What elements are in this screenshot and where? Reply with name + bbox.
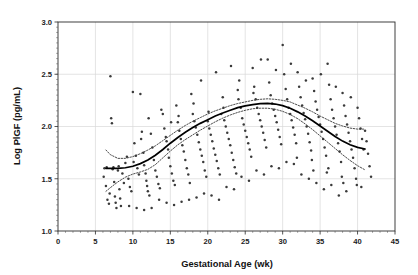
data-point: [167, 148, 170, 151]
data-point: [329, 98, 332, 101]
data-point: [284, 88, 287, 91]
data-point: [322, 138, 325, 141]
data-point: [198, 141, 201, 144]
data-point: [230, 151, 233, 154]
data-point: [260, 58, 263, 61]
data-point: [327, 167, 330, 170]
x-tick-labels-group: 051015202530354045: [56, 237, 400, 246]
data-point: [290, 119, 293, 122]
data-point: [252, 92, 255, 95]
data-point: [154, 169, 157, 172]
data-point: [260, 125, 263, 128]
data-point: [352, 157, 355, 160]
data-point: [328, 83, 331, 86]
data-point: [222, 96, 225, 99]
data-point: [214, 153, 217, 156]
data-point: [162, 113, 165, 116]
data-point: [256, 106, 259, 109]
data-point: [186, 167, 189, 170]
data-point: [126, 156, 128, 159]
data-point: [181, 144, 184, 147]
data-point: [269, 94, 272, 97]
data-point: [175, 104, 178, 107]
data-point: [119, 197, 122, 200]
data-point: [180, 138, 183, 141]
x-tick-label: 0: [56, 237, 60, 246]
data-point: [311, 159, 314, 162]
data-point: [305, 79, 308, 82]
data-point: [240, 175, 243, 178]
data-point: [356, 106, 359, 109]
data-point: [232, 159, 235, 162]
data-point: [215, 71, 218, 74]
data-point: [299, 96, 302, 99]
data-point: [320, 130, 323, 133]
data-point: [253, 86, 256, 89]
data-point: [300, 173, 303, 176]
data-point: [335, 134, 338, 137]
data-point: [192, 113, 195, 116]
y-tick-label: 1.0: [41, 227, 52, 236]
data-point: [293, 163, 296, 166]
data-point: [225, 125, 228, 128]
data-point: [210, 194, 213, 197]
data-point: [340, 161, 343, 164]
data-point: [316, 109, 319, 112]
data-point: [109, 75, 112, 78]
data-point: [127, 178, 130, 181]
data-point: [317, 116, 320, 119]
data-point: [255, 169, 258, 172]
data-point: [345, 190, 348, 193]
y-axis-title: Log PlGF (pg/mL): [12, 87, 22, 165]
data-point: [196, 134, 199, 137]
data-point: [177, 121, 180, 124]
data-point: [138, 173, 141, 176]
data-point: [265, 146, 268, 149]
data-point: [156, 175, 159, 178]
data-point: [144, 172, 147, 175]
data-point: [361, 138, 364, 141]
data-point: [121, 172, 124, 175]
data-point: [355, 178, 358, 181]
data-point: [268, 81, 271, 84]
data-point: [259, 119, 262, 122]
data-point: [188, 198, 191, 201]
data-point: [278, 136, 281, 139]
data-point: [301, 104, 304, 107]
data-point: [183, 150, 186, 153]
data-point: [226, 132, 229, 135]
data-point: [141, 130, 144, 133]
data-point: [286, 98, 289, 101]
data-point: [205, 175, 208, 178]
data-point: [128, 205, 131, 208]
x-tick-label: 15: [166, 237, 175, 246]
data-point: [298, 86, 301, 89]
data-point: [222, 106, 225, 109]
x-tick-label: 5: [93, 237, 98, 246]
data-point: [254, 98, 257, 101]
data-point: [332, 117, 335, 120]
data-point: [165, 202, 168, 205]
data-point: [150, 133, 153, 136]
data-point: [193, 120, 196, 123]
data-point: [307, 133, 310, 136]
data-point: [173, 204, 176, 207]
data-point: [338, 150, 341, 153]
data-point: [272, 109, 275, 112]
data-point: [187, 173, 190, 176]
data-point: [160, 109, 163, 112]
data-point: [105, 185, 108, 188]
plgf-scatter-figure: 051015202530354045 1.01.52.02.53.0 Gesta…: [0, 0, 418, 275]
data-point: [140, 138, 143, 141]
data-point: [353, 167, 356, 170]
data-point: [330, 184, 333, 187]
data-point: [359, 127, 362, 130]
y-tick-label: 2.0: [41, 122, 52, 131]
data-point: [236, 89, 239, 92]
data-point: [326, 63, 329, 66]
y-tick-label: 1.5: [41, 175, 52, 184]
y-tick-label: 3.0: [41, 18, 52, 27]
data-point: [343, 104, 346, 107]
y-tick-label: 2.5: [41, 70, 52, 79]
data-point: [180, 200, 183, 203]
